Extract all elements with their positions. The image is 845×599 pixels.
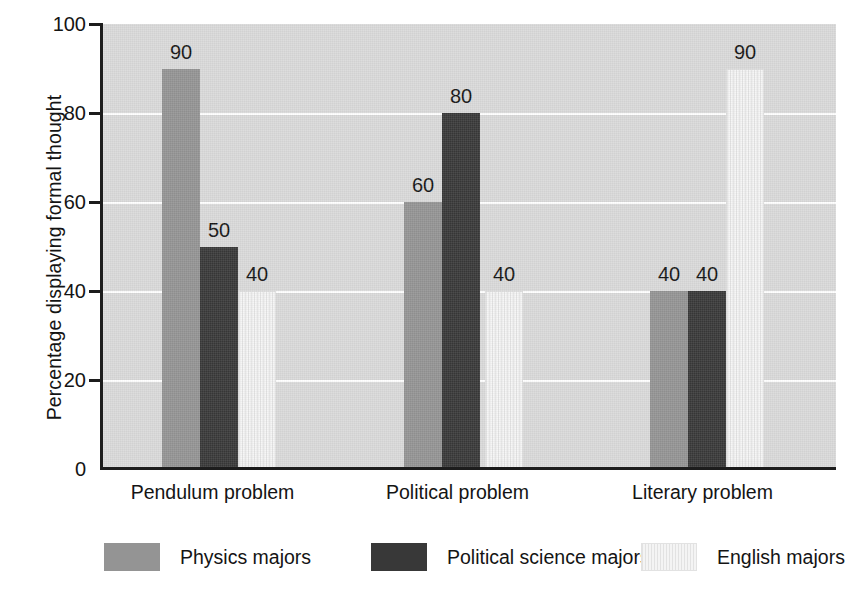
legend-swatch-english: [641, 543, 697, 571]
chart-legend: Physics majors Political science majors …: [0, 540, 845, 580]
legend-item-polisci: Political science majors: [371, 540, 650, 574]
legend-item-physics: Physics majors: [104, 540, 311, 574]
bar-value-pendulum-english: 40: [227, 264, 287, 284]
category-label-political: Political problem: [345, 481, 570, 504]
y-tick-label-20: 20: [26, 370, 86, 390]
y-tick-label-60: 60: [26, 192, 86, 212]
y-tick-label-40: 40: [26, 281, 86, 301]
bar-political-physics: [404, 202, 442, 469]
bar-political-english: [485, 291, 523, 469]
bar-value-political-polisci: 80: [431, 86, 491, 106]
bar-literary-physics: [650, 291, 688, 469]
legend-label-physics: Physics majors: [180, 546, 311, 569]
plot-area: 90 50 40 60 80 40 40 40 90: [103, 24, 836, 469]
bar-chart-figure: Percentage displaying formal thought 100…: [0, 0, 845, 599]
legend-swatch-polisci: [371, 543, 427, 571]
legend-label-english: English majors: [717, 546, 845, 569]
bar-value-pendulum-physics: 90: [151, 42, 211, 62]
legend-item-english: English majors: [641, 540, 845, 574]
bar-value-literary-polisci: 40: [677, 264, 737, 284]
bar-value-literary-english: 90: [715, 42, 775, 62]
bar-value-pendulum-polisci: 50: [189, 220, 249, 240]
category-label-pendulum: Pendulum problem: [100, 481, 325, 504]
y-axis-line: [100, 23, 103, 470]
bar-value-political-physics: 60: [393, 175, 453, 195]
bar-political-polisci: [442, 113, 480, 469]
y-tick-label-100: 100: [26, 14, 86, 34]
y-axis-tick-labels: 100 80 60 40 20 0: [20, 0, 86, 599]
y-tick-label-0: 0: [26, 459, 86, 479]
x-axis-line: [100, 467, 836, 470]
category-label-literary: Literary problem: [590, 481, 815, 504]
bar-value-political-english: 40: [474, 264, 534, 284]
bar-pendulum-physics: [162, 69, 200, 470]
y-tick-label-80: 80: [26, 103, 86, 123]
bar-literary-polisci: [688, 291, 726, 469]
bar-pendulum-english: [238, 291, 276, 469]
legend-swatch-physics: [104, 543, 160, 571]
legend-label-polisci: Political science majors: [447, 546, 650, 569]
